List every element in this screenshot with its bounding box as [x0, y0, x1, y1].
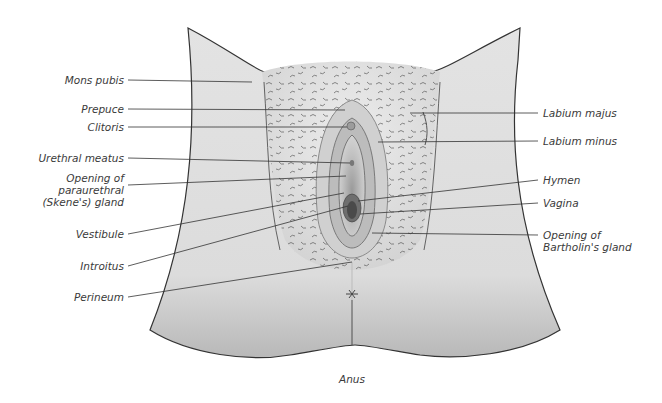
label-labium-minus: Labium minus [543, 135, 617, 147]
label-urethral-meatus: Urethral meatus [38, 152, 124, 164]
label-anus: Anus [337, 373, 367, 385]
label-introitus: Introitus [80, 260, 124, 272]
label-opening-paraurethral: Opening of paraurethral (Skene's) gland [42, 172, 124, 208]
label-hymen: Hymen [543, 174, 580, 186]
label-labium-majus: Labium majus [543, 107, 617, 119]
anatomy-diagram: Mons pubis Prepuce Clitoris Urethral mea… [0, 0, 662, 403]
label-opening-bartholin: Opening of Bartholin's gland [543, 229, 632, 253]
label-clitoris: Clitoris [88, 121, 124, 133]
label-vestibule: Vestibule [76, 228, 124, 240]
label-prepuce: Prepuce [81, 103, 124, 115]
label-perineum: Perineum [74, 291, 124, 303]
label-vagina: Vagina [543, 197, 579, 209]
label-mons-pubis: Mons pubis [65, 74, 124, 86]
